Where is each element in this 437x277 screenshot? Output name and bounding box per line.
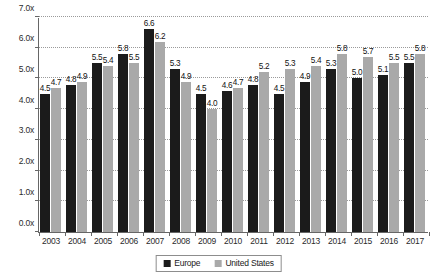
bar-value-label: 5.0 bbox=[352, 68, 362, 77]
bar-europe bbox=[248, 85, 258, 232]
bar-value-label: 4.9 bbox=[181, 72, 191, 81]
x-tick-mark bbox=[429, 232, 430, 236]
bar-group: 5.55.8 bbox=[403, 18, 429, 232]
bar-value-label: 5.5 bbox=[404, 53, 414, 62]
bar-value-label: 5.4 bbox=[103, 56, 113, 65]
bar-group: 4.54.7 bbox=[39, 18, 65, 232]
bar-europe bbox=[66, 85, 76, 232]
bar-value-label: 5.5 bbox=[389, 53, 399, 62]
bar-group: 5.85.5 bbox=[117, 18, 143, 232]
bar-value-label: 6.2 bbox=[155, 32, 165, 41]
bar-group: 4.85.2 bbox=[247, 18, 273, 232]
bar-us bbox=[155, 42, 165, 232]
y-tick-label: 2.0x bbox=[19, 156, 34, 166]
bar-europe bbox=[118, 54, 128, 232]
plot-area: 0.0x1.0x2.0x3.0x4.0x5.0x6.0x7.0x 4.54.74… bbox=[38, 18, 428, 233]
bar-us bbox=[363, 57, 373, 232]
y-tick-mark bbox=[35, 16, 39, 17]
bar-europe bbox=[170, 69, 180, 232]
bar-us bbox=[259, 72, 269, 232]
x-tick-label-2007: 2007 bbox=[146, 236, 164, 246]
bar-group: 5.15.5 bbox=[377, 18, 403, 232]
bar-europe bbox=[352, 78, 362, 232]
grid-line bbox=[39, 16, 428, 17]
y-tick-label: 0.0x bbox=[19, 218, 34, 228]
chart-legend: EuropeUnited States bbox=[155, 255, 282, 272]
bar-value-label: 5.5 bbox=[92, 53, 102, 62]
bar-value-label: 4.5 bbox=[40, 84, 50, 93]
x-tick-label-2014: 2014 bbox=[328, 236, 346, 246]
bar-europe bbox=[92, 63, 102, 232]
bar-group: 4.55.3 bbox=[273, 18, 299, 232]
y-tick-label: 7.0x bbox=[19, 3, 34, 13]
bar-value-label: 4.0 bbox=[207, 99, 217, 108]
y-tick-label: 4.0x bbox=[19, 95, 34, 105]
bar-us bbox=[415, 54, 425, 232]
bar-us bbox=[51, 88, 61, 232]
y-tick-label: 5.0x bbox=[19, 64, 34, 74]
bar-value-label: 4.7 bbox=[233, 78, 243, 87]
x-tick-label-2003: 2003 bbox=[42, 236, 60, 246]
bar-value-label: 5.2 bbox=[259, 62, 269, 71]
x-tick-label-2017: 2017 bbox=[406, 236, 424, 246]
bar-europe bbox=[40, 94, 50, 232]
bar-value-label: 4.5 bbox=[196, 84, 206, 93]
legend-item-united-states[interactable]: United States bbox=[214, 258, 273, 268]
bar-group: 4.54.0 bbox=[195, 18, 221, 232]
bar-group: 4.64.7 bbox=[221, 18, 247, 232]
legend-item-europe[interactable]: Europe bbox=[163, 258, 200, 268]
bar-chart: 0.0x1.0x2.0x3.0x4.0x5.0x6.0x7.0x 4.54.74… bbox=[0, 0, 437, 277]
bar-value-label: 4.8 bbox=[248, 75, 258, 84]
bar-us bbox=[207, 109, 217, 232]
bar-group: 5.34.9 bbox=[169, 18, 195, 232]
x-tick-label-2004: 2004 bbox=[68, 236, 86, 246]
bar-us bbox=[233, 88, 243, 232]
bar-group: 6.66.2 bbox=[143, 18, 169, 232]
bar-value-label: 5.8 bbox=[118, 44, 128, 53]
x-tick-label-2015: 2015 bbox=[354, 236, 372, 246]
bar-value-label: 6.6 bbox=[144, 19, 154, 28]
bar-us bbox=[389, 63, 399, 232]
bar-group: 4.95.4 bbox=[299, 18, 325, 232]
bar-europe bbox=[144, 29, 154, 232]
bar-value-label: 4.9 bbox=[77, 72, 87, 81]
bar-europe bbox=[222, 91, 232, 232]
bar-europe bbox=[300, 82, 310, 233]
x-tick-label-2012: 2012 bbox=[276, 236, 294, 246]
bar-value-label: 5.5 bbox=[129, 53, 139, 62]
y-tick-label: 3.0x bbox=[19, 125, 34, 135]
bar-europe bbox=[196, 94, 206, 232]
bars-layer: 4.54.74.84.95.55.45.85.56.66.25.34.94.54… bbox=[39, 18, 428, 232]
x-tick-label-2013: 2013 bbox=[302, 236, 320, 246]
x-tick-label-2006: 2006 bbox=[120, 236, 138, 246]
bar-group: 5.05.7 bbox=[351, 18, 377, 232]
x-tick-label-2005: 2005 bbox=[94, 236, 112, 246]
bar-us bbox=[77, 82, 87, 233]
bar-us bbox=[129, 63, 139, 232]
legend-label: Europe bbox=[174, 258, 200, 268]
bar-value-label: 5.8 bbox=[337, 44, 347, 53]
bar-us bbox=[103, 66, 113, 232]
bar-value-label: 4.9 bbox=[300, 72, 310, 81]
y-tick-label: 1.0x bbox=[19, 187, 34, 197]
bar-europe bbox=[274, 94, 284, 232]
bar-value-label: 5.3 bbox=[326, 59, 336, 68]
legend-label: United States bbox=[225, 258, 273, 268]
x-tick-label-2011: 2011 bbox=[250, 236, 267, 246]
x-tick-label-2010: 2010 bbox=[224, 236, 242, 246]
x-tick-label-2008: 2008 bbox=[172, 236, 190, 246]
x-tick-label-2016: 2016 bbox=[380, 236, 398, 246]
x-tick-label-2009: 2009 bbox=[198, 236, 216, 246]
bar-value-label: 5.3 bbox=[170, 59, 180, 68]
bar-group: 5.35.8 bbox=[325, 18, 351, 232]
bar-group: 5.55.4 bbox=[91, 18, 117, 232]
bar-europe bbox=[404, 63, 414, 232]
bar-value-label: 4.8 bbox=[66, 75, 76, 84]
bar-group: 4.84.9 bbox=[65, 18, 91, 232]
bar-us bbox=[311, 66, 321, 232]
bar-us bbox=[285, 69, 295, 232]
bar-value-label: 4.5 bbox=[274, 84, 284, 93]
bar-value-label: 5.7 bbox=[363, 47, 373, 56]
y-tick-label: 6.0x bbox=[19, 33, 34, 43]
bar-value-label: 5.3 bbox=[285, 59, 295, 68]
